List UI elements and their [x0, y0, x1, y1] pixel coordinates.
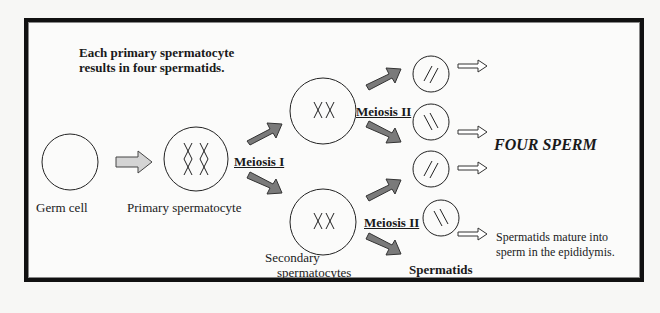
mature-line-2: sperm in the epididymis. — [496, 245, 615, 260]
primary-spermatocyte-circle — [164, 127, 228, 191]
dark-arrow-icon — [366, 68, 401, 90]
secondary-label-1: Secondary — [265, 250, 320, 266]
dark-arrow-icon — [366, 233, 401, 255]
dark-arrow-icon — [366, 179, 401, 201]
meiosis-2-top-label: Meiosis II — [356, 104, 411, 120]
meiosis-1-label: Meiosis I — [234, 154, 284, 170]
four-sperm-label: FOUR SPERM — [494, 136, 597, 154]
dark-arrow-up-icon — [247, 123, 282, 145]
mature-line-1: Spermatids mature into — [496, 230, 608, 245]
chromosomes-icon — [184, 143, 208, 175]
light-arrow-icon — [116, 151, 152, 173]
germ-cell-label: Germ cell — [36, 200, 88, 216]
spermatids-label: Spermatids — [409, 262, 473, 278]
dark-arrow-icon — [366, 121, 401, 143]
secondary-spermatocyte-top — [290, 78, 356, 144]
title-line-2: results in four spermatids. — [79, 60, 224, 76]
secondary-label-2: spermatocytes — [277, 265, 351, 281]
dark-arrow-down-icon — [247, 172, 282, 194]
title-line-1: Each primary spermatocyte — [79, 45, 234, 61]
primary-label: Primary spermatocyte — [127, 200, 241, 216]
germ-cell-circle — [42, 134, 98, 190]
secondary-spermatocyte-bottom — [290, 189, 356, 255]
meiosis-2-bottom-label: Meiosis II — [364, 215, 419, 231]
